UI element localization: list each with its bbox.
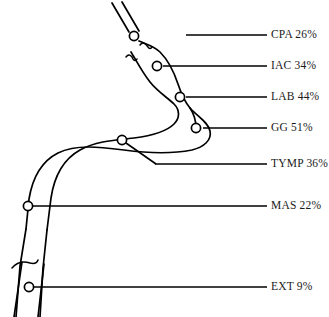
label-cpa: CPA 26%	[271, 29, 317, 41]
gg-marker[interactable]	[191, 123, 200, 132]
nerve-inferior-border	[47, 52, 179, 230]
extratemporal-anterior-line	[14, 262, 22, 317]
label-mas: MAS 22%	[271, 200, 321, 212]
tymp-leader-elbow	[126, 143, 156, 164]
facial-nerve-diagram: CPA 26%IAC 34%LAB 44%GG 51%TYMP 36%MAS 2…	[0, 0, 329, 317]
label-gg: GG 51%	[271, 122, 313, 134]
point-marker-group	[23, 31, 200, 291]
iac-marker[interactable]	[152, 61, 161, 70]
lab-marker[interactable]	[175, 92, 184, 101]
cpa-trunk-inner-line	[122, 2, 139, 31]
label-lab: LAB 44%	[271, 91, 319, 103]
tymp-marker[interactable]	[117, 135, 126, 144]
ext-marker[interactable]	[24, 282, 33, 291]
cpa-trunk-outer-line	[112, 3, 129, 32]
label-iac: IAC 34%	[271, 60, 316, 72]
nerve-outline-group	[14, 2, 210, 317]
label-tymp: TYMP 36%	[271, 158, 328, 170]
break-mark-stylomastoid-icon	[12, 260, 38, 268]
cpa-marker[interactable]	[129, 31, 138, 40]
mas-marker[interactable]	[23, 201, 32, 210]
nerve-superior-border	[26, 41, 210, 229]
label-ext: EXT 9%	[271, 281, 313, 293]
break-mark-group	[12, 43, 152, 268]
